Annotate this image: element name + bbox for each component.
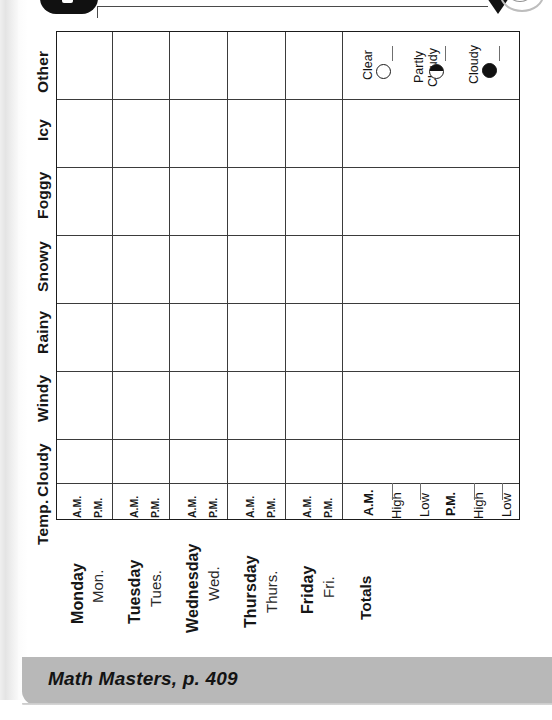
- ampm-label-mon-pm: P.M.: [92, 498, 104, 518]
- category-label-other: Other: [34, 51, 52, 93]
- table-row-divider: [57, 99, 519, 100]
- filled-circle-icon: [482, 63, 497, 78]
- totals-column-label: Totals: [357, 576, 375, 621]
- legend-label-cloudy: Cloudy: [468, 45, 481, 84]
- table-row-divider: [57, 371, 519, 372]
- table-column-divider: [342, 32, 343, 519]
- day-label-monday-abbr: Mon.: [89, 570, 106, 603]
- ampm-label-thu-am: A.M.: [244, 496, 256, 518]
- header-artwork-strip: [0, 0, 552, 26]
- ampm-label-mon-am: A.M.: [71, 496, 83, 518]
- category-label-rainy: Rainy: [34, 311, 52, 354]
- table-column-divider: [169, 32, 170, 519]
- totals-tally-rule: [502, 483, 503, 500]
- legend-tally-rule: [499, 46, 500, 61]
- category-label-cloudy: Cloudy: [34, 443, 52, 497]
- footer-citation: Math Masters, p. 409: [48, 668, 238, 690]
- table-row-divider: [57, 439, 519, 440]
- totals-tally-rule: [420, 483, 421, 500]
- ampm-label-fri-am: A.M.: [301, 496, 313, 518]
- category-label-foggy: Foggy: [34, 172, 52, 220]
- legend-tally-rule: [392, 46, 393, 61]
- header-rule-cap: [97, 6, 98, 18]
- legend-label-partly: Partly: [413, 51, 426, 83]
- day-label-wednesday-abbr: Wed.: [205, 566, 222, 601]
- category-label-icy: Icy: [34, 119, 52, 141]
- scanned-worksheet-page: Clear Partly Cloudy Cloudy A.M. High Low…: [0, 0, 552, 720]
- totals-tally-rule: [392, 483, 393, 500]
- table-row-divider: [57, 483, 519, 484]
- day-label-thursday-full: Thursday: [242, 555, 260, 628]
- category-label-windy: Windy: [34, 375, 52, 422]
- category-label-temp: Temp.: [34, 500, 52, 546]
- legend-tally-rule: [445, 46, 446, 61]
- day-label-tuesday-full: Tuesday: [126, 560, 144, 624]
- ampm-label-thu-pm: P.M.: [265, 498, 277, 518]
- table-row-divider: [57, 235, 519, 236]
- page-bottom-margin: [0, 705, 552, 720]
- category-label-snowy: Snowy: [34, 241, 52, 292]
- totals-tally-rule: [474, 483, 475, 500]
- ampm-label-tue-pm: P.M.: [149, 498, 161, 518]
- day-label-monday-full: Monday: [69, 563, 87, 624]
- half-filled-circle-icon: [429, 64, 444, 79]
- open-circle-icon: [376, 64, 391, 79]
- day-label-friday-full: Friday: [299, 565, 317, 614]
- table-column-divider: [227, 32, 228, 519]
- legend-label-clear: Clear: [362, 50, 375, 80]
- page-binding-edge-inner: [18, 0, 28, 700]
- totals-entry-pm: P.M.: [444, 492, 458, 516]
- day-label-thursday-abbr: Thurs.: [263, 570, 280, 613]
- clipped-shape-notch-icon: [62, 0, 73, 3]
- table-row-divider: [57, 167, 519, 168]
- table-column-divider: [285, 32, 286, 519]
- totals-entry-am: A.M.: [362, 490, 376, 516]
- table-column-divider: [112, 32, 113, 519]
- ampm-label-wed-pm: P.M.: [207, 498, 219, 518]
- weather-report-table: Clear Partly Cloudy Cloudy A.M. High Low…: [56, 31, 520, 520]
- day-label-tuesday-abbr: Tues.: [147, 570, 164, 607]
- table-row-divider: [57, 303, 519, 304]
- ampm-label-fri-pm: P.M.: [322, 498, 334, 518]
- ampm-label-wed-am: A.M.: [186, 496, 198, 518]
- ampm-label-tue-am: A.M.: [128, 496, 140, 518]
- day-label-friday-abbr: Fri.: [320, 576, 337, 598]
- header-horizontal-rule: [98, 6, 488, 7]
- day-label-wednesday-full: Wednesday: [184, 543, 202, 633]
